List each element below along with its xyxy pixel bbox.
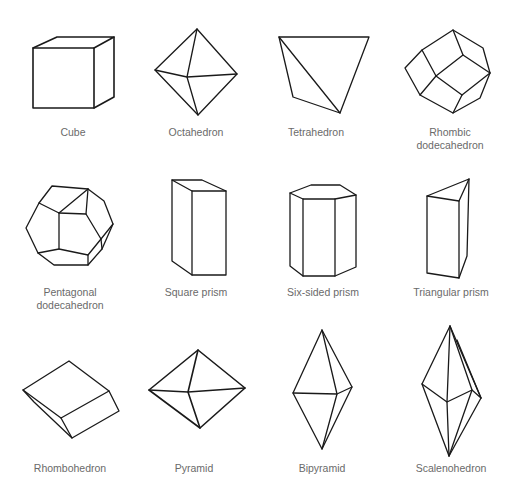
label-pentagonal-dodecahedron: Pentagonal dodecahedron xyxy=(10,286,130,312)
label-octahedron: Octahedron xyxy=(136,126,256,139)
cube-shape xyxy=(33,37,114,108)
tetrahedron-shape xyxy=(279,37,369,113)
label-pentagonal-line1: Pentagonal xyxy=(10,286,130,299)
label-rhombic-line2: dodecahedron xyxy=(390,139,510,152)
rhombohedron-shape xyxy=(23,361,119,438)
bipyramid-shape xyxy=(293,330,352,449)
label-rhombohedron: Rhombohedron xyxy=(10,462,130,475)
label-pyramid: Pyramid xyxy=(134,462,254,475)
pyramid-shape xyxy=(149,350,245,428)
label-cube: Cube xyxy=(13,126,133,139)
label-square-prism: Square prism xyxy=(136,286,256,299)
octahedron-shape xyxy=(155,29,237,115)
pentagonal-dodecahedron-shape xyxy=(26,186,113,265)
triangular-prism-shape xyxy=(427,179,469,278)
rhombic-dodecahedron-shape xyxy=(405,30,490,113)
six-sided-prism-shape xyxy=(290,185,356,276)
label-triangular-prism: Triangular prism xyxy=(391,286,511,299)
label-rhombic-dodecahedron: Rhombic dodecahedron xyxy=(390,126,510,152)
label-scalenohedron: Scalenohedron xyxy=(391,462,511,475)
label-rhombic-line1: Rhombic xyxy=(390,126,510,139)
label-bipyramid: Bipyramid xyxy=(262,462,382,475)
label-pentagonal-line2: dodecahedron xyxy=(10,299,130,312)
label-tetrahedron: Tetrahedron xyxy=(256,126,376,139)
square-prism-shape xyxy=(172,180,226,275)
crystal-forms-diagram: Cube Octahedron Tetrahedron Rhombic dode… xyxy=(0,0,512,494)
scalenohedron-shape xyxy=(422,326,481,456)
label-six-sided-prism: Six-sided prism xyxy=(263,286,383,299)
